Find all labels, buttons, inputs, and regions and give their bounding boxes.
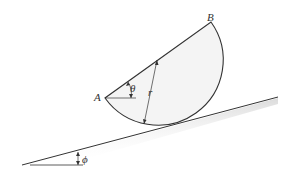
label-phi: ϕ [82, 153, 88, 165]
label-theta: θ [130, 82, 136, 94]
label-a: A [93, 91, 101, 103]
label-r: r [148, 86, 153, 98]
phi-arrowhead-bottom [76, 161, 80, 165]
semicircle-on-incline-diagram: A B θ r ϕ [0, 0, 291, 178]
label-b: B [207, 11, 214, 23]
semicircular-disk [105, 22, 223, 125]
